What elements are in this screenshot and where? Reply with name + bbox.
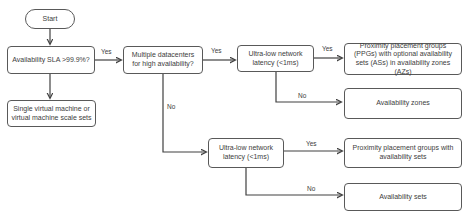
edge-label-ultralow2-yes: Yes [306, 141, 317, 148]
edge-label-datacenters-no: No [167, 104, 175, 111]
multiple-datacenters-decision: Multiple datacenters for high availabili… [123, 46, 203, 74]
ppg-availability-sets-node: Proximity placement groups with availabi… [344, 138, 462, 168]
edge-label-ultralow2-no: No [307, 186, 315, 193]
ultra-low-latency-decision-top: Ultra-low network latency (<1ms) [237, 45, 314, 72]
start-node: Start [25, 9, 75, 29]
edge-label-ultralow1-yes: Yes [322, 46, 333, 53]
edge-label-datacenters-yes: Yes [211, 48, 222, 55]
edge-ultralow2-asets [246, 168, 342, 195]
availability-sla-decision: Availability SLA >99.9%? [7, 46, 95, 74]
edge-ultralow1-azones [276, 72, 341, 102]
ultra-low-latency-decision-bottom: Ultra-low network latency (<1ms) [208, 138, 284, 168]
flowchart: Start Availability SLA >99.9%? Single vi… [0, 0, 472, 220]
edge-label-ultralow1-no: No [298, 93, 306, 100]
ppg-availability-zones-node: Proximity placement groups (PPGs) with o… [344, 43, 462, 75]
edge-label-sla-yes: Yes [101, 49, 112, 56]
single-vm-node: Single virtual machine or virtual machin… [7, 100, 96, 127]
availability-zones-node: Availability zones [344, 88, 462, 119]
edge-datacenters-ultralow2 [163, 74, 206, 152]
availability-sets-node: Availability sets [344, 183, 462, 211]
